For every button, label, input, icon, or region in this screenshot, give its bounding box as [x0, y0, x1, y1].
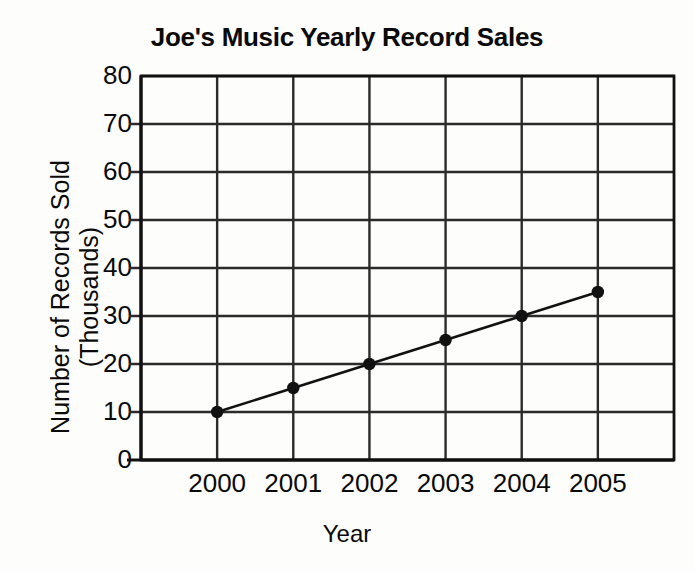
data-point-marker[interactable]	[439, 334, 451, 346]
data-point-marker[interactable]	[592, 286, 604, 298]
data-point-marker[interactable]	[287, 382, 299, 394]
data-point-marker[interactable]	[516, 310, 528, 322]
data-line-records-sold	[217, 292, 598, 412]
data-point-marker[interactable]	[363, 358, 375, 370]
x-tick-label: 2005	[548, 468, 648, 499]
plot-area: 200020012002200320042005	[0, 0, 694, 571]
data-point-marker[interactable]	[211, 406, 223, 418]
